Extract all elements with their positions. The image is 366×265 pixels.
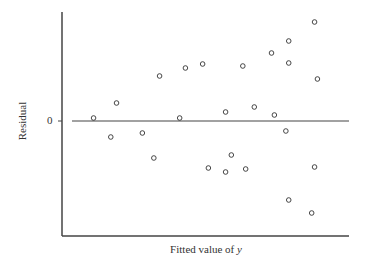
x-axis-title: Fitted value of y [0,243,366,255]
data-point [108,135,113,140]
data-point [177,116,182,121]
data-point [152,156,157,161]
data-point [114,101,119,106]
zero-tick-label: 0 [47,114,53,126]
data-point [200,62,205,67]
data-point [183,66,188,71]
data-point [140,131,145,136]
data-point [286,39,291,44]
data-point [252,105,257,110]
data-point [243,167,248,172]
data-point [272,113,277,118]
data-point [241,64,246,69]
data-point [286,61,291,66]
data-point [315,77,320,82]
data-point [312,20,317,25]
y-axis-title: Residual [16,102,28,141]
residual-plot [0,0,366,265]
data-point [223,170,228,175]
data-point [309,211,314,216]
data-point [284,129,289,134]
data-point [286,198,291,203]
x-axis-title-variable: y [237,243,242,255]
data-point [229,153,234,158]
data-point [157,74,162,79]
data-point [91,116,96,121]
x-axis-title-text: Fitted value of [170,243,237,255]
data-point [269,51,274,56]
data-point [206,166,211,171]
data-point [223,110,228,115]
data-points [91,20,319,216]
data-point [312,165,317,170]
